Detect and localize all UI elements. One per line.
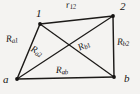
segment-label-rab: Rab — [56, 66, 68, 77]
segment-rb2-line — [113, 16, 114, 77]
segment-label-rb2-sub: b2 — [122, 40, 129, 47]
vertex-dot-b — [112, 75, 116, 79]
vertex-label-2: 2 — [120, 1, 125, 12]
segment-label-ra1-sub: a1 — [11, 36, 18, 44]
vertex-label-1: 1 — [36, 8, 41, 19]
vertex-label-b: b — [124, 73, 129, 84]
segment-rb1-line — [40, 24, 114, 77]
segment-label-rab-sub: ab — [62, 68, 68, 75]
vertex-label-a: a — [3, 74, 8, 85]
geometry-figure: 1 2 a b r12 Ra1 Ra2 Rb1 Rb2 Rab — [0, 0, 140, 94]
segment-label-r12-sub: 12 — [69, 2, 76, 10]
vertex-dot-1 — [38, 22, 42, 26]
segment-rab-line — [17, 77, 114, 79]
segment-label-r12: r12 — [65, 0, 76, 11]
segment-label-ra1: Ra1 — [5, 34, 18, 46]
segment-label-rb2: Rb2 — [117, 37, 130, 48]
vertex-dot-2 — [111, 14, 115, 18]
vertex-dot-a — [15, 77, 19, 81]
